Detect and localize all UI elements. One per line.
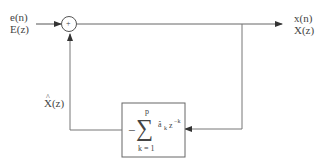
feedback-label: X(z) [44,97,64,109]
output-z-label: X(z) [294,24,314,36]
input-z-label: E(z) [10,23,29,35]
sigma-symbol: ∑ [136,116,153,140]
minus-sign: − [128,125,135,137]
block-diagram-canvas [0,0,329,165]
lower-limit: k = 1 [138,143,155,155]
z-symbol: z [169,120,173,132]
coefficient-subscript: k [164,122,167,134]
upper-limit: p [145,106,149,118]
output-time-label: x(n) [294,12,312,24]
input-time-label: e(n) [10,11,28,23]
coefficient: â [158,119,162,131]
z-exponent: −k [174,115,180,127]
plus-sign: + [66,18,71,30]
